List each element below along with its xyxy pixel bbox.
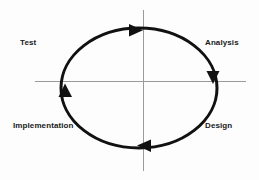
- phase-label-analysis: Analysis: [205, 38, 239, 48]
- phase-label-test: Test: [20, 38, 36, 48]
- phase-label-implementation: Implementation: [13, 121, 74, 131]
- cycle-canvas: [0, 0, 259, 180]
- lifecycle-diagram: Test Analysis Design Implementation: [0, 0, 259, 180]
- arrow-top-icon: [129, 24, 143, 37]
- phase-label-design: Design: [205, 121, 232, 131]
- cycle-ellipse: [61, 28, 217, 148]
